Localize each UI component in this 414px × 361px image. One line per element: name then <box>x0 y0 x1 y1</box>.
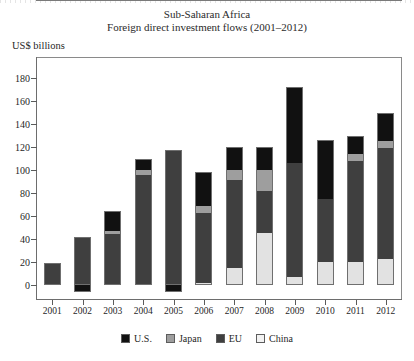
x-axis-tick-label: 2012 <box>369 306 403 316</box>
x-axis-tick-label: 2009 <box>278 306 312 316</box>
bar-segment-eu <box>347 161 364 262</box>
bar-segment-jp <box>135 170 152 175</box>
x-axis-tick <box>356 300 357 305</box>
bar-segment-us-negative <box>165 285 182 292</box>
legend-item-eu[interactable]: EU <box>216 333 242 344</box>
y-axis-tick-label: 160 <box>4 96 30 107</box>
x-axis-tick <box>265 300 266 305</box>
legend-item-japan[interactable]: Japan <box>166 333 202 344</box>
bar-segment-us <box>135 159 152 171</box>
x-axis-tick-label: 2002 <box>66 306 100 316</box>
bar-segment-eu <box>195 213 212 283</box>
bar-segment-us <box>286 87 303 163</box>
bar-segment-eu <box>377 148 394 258</box>
bar-segment-us <box>256 147 273 170</box>
legend-label-japan: Japan <box>179 333 202 344</box>
y-axis-tick-label: 80 <box>4 188 30 199</box>
legend-swatch-japan <box>166 334 175 343</box>
bar-segment-eu <box>74 237 91 285</box>
bar-segment-cn <box>377 259 394 285</box>
x-axis-tick <box>234 300 235 305</box>
x-axis-line <box>36 299 402 300</box>
bar-segment-jp <box>347 154 364 161</box>
x-axis-tick-label: 2004 <box>126 306 160 316</box>
bar-segment-jp <box>226 170 243 180</box>
legend-label-china: China <box>269 333 293 344</box>
y-axis-tick-label: 60 <box>4 211 30 222</box>
x-axis-tick-label: 2010 <box>308 306 342 316</box>
legend-label-eu: EU <box>229 333 242 344</box>
y-axis-tick-labels: 180160140120100806040200 <box>0 0 30 361</box>
x-axis-tick <box>174 300 175 305</box>
bar-segment-eu <box>226 180 243 267</box>
chart-title-line-1: Sub-Saharan Africa <box>0 8 414 21</box>
chart-title-block: Sub-Saharan Africa Foreign direct invest… <box>0 8 414 34</box>
bar-segment-cn <box>226 268 243 285</box>
zero-baseline <box>36 0 402 1</box>
bar-segment-eu <box>165 150 182 285</box>
bar-segment-cn <box>195 283 212 285</box>
x-axis-tick <box>204 300 205 305</box>
x-axis-tick <box>295 300 296 305</box>
x-axis-tick-label: 2011 <box>339 306 373 316</box>
x-axis-tick <box>325 300 326 305</box>
x-axis-tick <box>83 300 84 305</box>
legend-swatch-china <box>256 334 265 343</box>
x-axis-tick <box>113 300 114 305</box>
y-axis-tick-label: 0 <box>4 280 30 291</box>
bar-segment-us <box>347 136 364 154</box>
legend-swatch-us <box>121 334 130 343</box>
chart-figure: Sub-Saharan Africa Foreign direct invest… <box>0 0 414 361</box>
x-axis-tick-label: 2006 <box>187 306 221 316</box>
x-axis-tick-label: 2003 <box>96 306 130 316</box>
bar-segment-eu <box>317 199 334 262</box>
bar-segment-us <box>226 147 243 170</box>
bar-segment-eu <box>44 263 61 285</box>
x-axis-tick-label: 2001 <box>35 306 69 316</box>
bar-segment-cn <box>286 277 303 285</box>
chart-legend: U.S.JapanEUChina <box>0 333 414 344</box>
bar-segment-us <box>377 113 394 142</box>
bar-segment-eu <box>286 163 303 277</box>
bar-segment-us <box>195 172 212 205</box>
x-axis-tick-label: 2005 <box>157 306 191 316</box>
legend-item-us[interactable]: U.S. <box>121 333 152 344</box>
legend-swatch-eu <box>216 334 225 343</box>
legend-label-us: U.S. <box>134 333 152 344</box>
x-axis-tick-label: 2008 <box>248 306 282 316</box>
legend-item-china[interactable]: China <box>256 333 293 344</box>
bar-segment-eu <box>256 191 273 234</box>
bars-container <box>37 58 401 299</box>
bar-segment-jp <box>195 206 212 213</box>
bar-segment-us-negative <box>74 285 91 292</box>
bar-segment-jp <box>104 231 121 234</box>
y-axis-tick-label: 100 <box>4 165 30 176</box>
bar-segment-jp <box>256 170 273 191</box>
y-axis-tick-label: 120 <box>4 142 30 153</box>
bar-segment-cn <box>256 233 273 285</box>
y-axis-tick-label: 20 <box>4 257 30 268</box>
y-axis-tick-label: 40 <box>4 234 30 245</box>
x-axis-tick <box>386 300 387 305</box>
bar-segment-cn <box>347 262 364 285</box>
chart-subtitle-line-2: Foreign direct investment flows (2001–20… <box>0 21 414 34</box>
x-axis-tick <box>143 300 144 305</box>
bar-segment-us <box>104 211 121 231</box>
x-axis-tick <box>52 300 53 305</box>
bar-segment-eu <box>104 234 121 285</box>
bar-segment-us <box>317 140 334 199</box>
bar-segment-cn <box>317 262 334 285</box>
bar-segment-eu <box>135 175 152 285</box>
y-axis-tick-label: 140 <box>4 119 30 130</box>
x-axis-tick-label: 2007 <box>217 306 251 316</box>
y-axis-tick-label: 180 <box>4 73 30 84</box>
bar-segment-jp <box>377 141 394 148</box>
